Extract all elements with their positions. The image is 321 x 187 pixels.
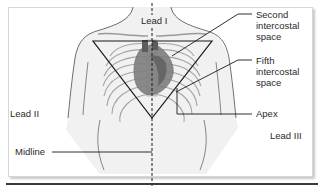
second-intercostal-label: Second intercostal space bbox=[256, 9, 299, 42]
bottom-divider bbox=[6, 183, 318, 185]
lead-iii-label: Lead III bbox=[270, 130, 302, 141]
apex-label: Apex bbox=[256, 108, 278, 119]
lead-i-label: Lead I bbox=[140, 15, 168, 26]
fifth-intercostal-label: Fifth intercostal space bbox=[256, 55, 299, 88]
midline-label: Midline bbox=[15, 146, 45, 157]
lead-ii-label: Lead II bbox=[10, 108, 39, 119]
